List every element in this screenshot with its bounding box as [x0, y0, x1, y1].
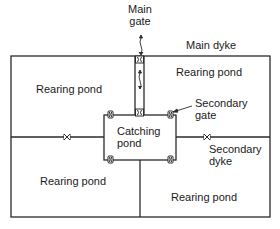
valve-icon-right-dyke [204, 134, 210, 140]
secondary-gate-label-line2: gate [195, 109, 248, 121]
main-dyke-label: Main dyke [186, 39, 236, 51]
flow-arrow-icon [139, 35, 143, 55]
secondary-dyke-label: Secondary dyke [209, 143, 262, 167]
secondary-gate-icon-top-left [108, 111, 113, 118]
main-gate-label-line1: Main [128, 3, 152, 15]
secondary-dyke-label-line1: Secondary [209, 143, 262, 155]
valve-icon-left-dyke [64, 134, 70, 140]
secondary-dyke-label-line2: dyke [209, 155, 262, 167]
rearing-pond-bottom-left-label: Rearing pond [40, 175, 106, 187]
secondary-gate-label: Secondary gate [195, 97, 248, 121]
secondary-gate-icon-bottom-left [108, 156, 113, 163]
secondary-gate-pointer-icon [173, 106, 192, 112]
channel-inner-gate-icon [136, 109, 144, 116]
main-gate-label: Main gate [128, 3, 152, 27]
rearing-pond-top-left-label: Rearing pond [36, 83, 102, 95]
catching-pond-label-line1: Catching [117, 125, 160, 137]
main-gate-label-line2: gate [128, 15, 152, 27]
secondary-gate-icon-bottom-right [168, 156, 173, 163]
rearing-pond-bottom-right-label: Rearing pond [171, 191, 237, 203]
catching-pond-label: Catching pond [117, 125, 160, 149]
rearing-pond-top-right-label: Rearing pond [176, 66, 242, 78]
secondary-gate-label-line1: Secondary [195, 97, 248, 109]
main-gate-icon [136, 56, 144, 63]
channel-flow-arrow-icon [139, 70, 142, 89]
catching-pond-label-line2: pond [117, 137, 160, 149]
fish-pond-layout-diagram: Main gate Main dyke Rearing pond Rearing… [0, 0, 280, 229]
